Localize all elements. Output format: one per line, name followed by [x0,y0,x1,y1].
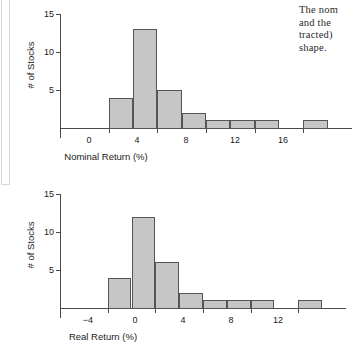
x-axis-tick [155,309,156,313]
histogram-bar [206,120,230,129]
x-axis-tick-label: 0 [115,316,155,325]
histogram-bar [157,90,181,129]
y-axis-tick [56,194,60,195]
x-axis-tick [203,309,204,313]
x-axis-tick [298,309,299,313]
x-axis-tick [303,129,304,133]
histogram-bar [133,29,157,129]
y-axis-line [60,194,61,318]
y-axis-tick [56,52,60,53]
y-axis-tick-label: 15 [28,190,54,199]
figure-page: The nom and the tracted) shape. 51015048… [0,0,364,358]
histogram-bar [303,120,327,129]
histogram-bar [179,293,203,309]
y-axis-title: # of Stocks [26,30,36,100]
x-axis-tick-label: 4 [117,136,157,145]
y-axis-tick [56,90,60,91]
x-axis-tick-label: 0 [69,136,109,145]
x-axis-title: Nominal Return (%) [6,152,206,162]
x-axis-tick-label: 8 [211,316,251,325]
real-return-histogram: 51015−404812Real Return (%)# of Stocks [0,180,364,358]
x-axis-tick-label: 4 [163,316,203,325]
x-axis-tick [108,309,109,313]
histogram-bar [109,98,133,129]
y-axis-tick-label: 15 [28,10,54,19]
x-axis-tick-label: 12 [258,316,298,325]
plot-area-real: 51015−404812Real Return (%)# of Stocks [0,180,364,358]
y-axis-tick [56,270,60,271]
x-axis-tick-label: 8 [166,136,206,145]
histogram-bar [108,278,132,309]
histogram-bar [255,120,279,129]
histogram-bar [230,120,254,129]
y-axis-tick [56,232,60,233]
x-axis-tick-label: −4 [68,316,108,325]
x-axis-tick-label: 12 [215,136,255,145]
plot-area-nominal: 510150481216Nominal Return (%)# of Stock… [0,0,364,178]
histogram-bar [227,300,251,309]
histogram-bar [155,262,179,309]
x-axis-tick [255,129,256,133]
y-axis-line [60,14,61,138]
x-axis-tick [157,129,158,133]
histogram-bar [298,300,322,309]
y-axis-tick [56,14,60,15]
x-axis-tick [251,309,252,313]
nominal-return-histogram: 510150481216Nominal Return (%)# of Stock… [0,0,364,178]
x-axis-tick [206,129,207,133]
histogram-bar [132,217,156,309]
y-axis-title: # of Stocks [26,210,36,280]
x-axis-tick [109,129,110,133]
histogram-bar [182,113,206,129]
histogram-bar [251,300,275,309]
x-axis-title: Real Return (%) [3,332,203,342]
x-axis-tick-label: 16 [263,136,303,145]
histogram-bar [203,300,227,309]
